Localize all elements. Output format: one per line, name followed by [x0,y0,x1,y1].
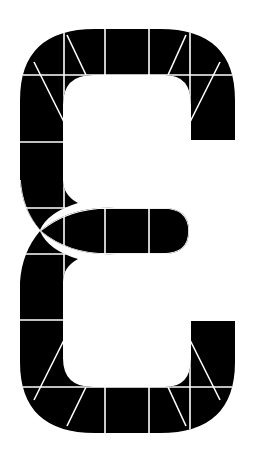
glyph-canvas: Segmented epsilon glyph [0,0,259,463]
epsilon-glyph-icon [0,0,259,463]
